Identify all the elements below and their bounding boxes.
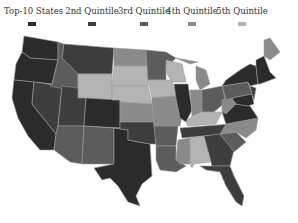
legend-label: 5th Quintile: [214, 6, 270, 16]
legend-label: 2nd Quintile: [64, 6, 120, 16]
state-mississippi: [176, 138, 190, 164]
legend-swatch: [140, 22, 148, 26]
legend-swatch: [238, 22, 246, 26]
legend-swatch: [188, 22, 196, 26]
legend-swatch: [88, 22, 96, 26]
state-colorado: [84, 98, 120, 128]
state-arizona: [54, 126, 84, 164]
us-choropleth-map: [0, 28, 298, 223]
legend-label: 4th Quintile: [164, 6, 220, 16]
legend-swatch: [28, 22, 36, 26]
state-new-england: [256, 56, 276, 84]
legend-item-4th: 4th Quintile: [164, 6, 220, 26]
legend-item-5th: 5th Quintile: [214, 6, 270, 26]
state-arkansas: [154, 126, 178, 146]
state-indiana: [190, 90, 202, 116]
legend-item-2nd: 2nd Quintile: [64, 6, 120, 26]
state-iowa: [148, 80, 176, 98]
state-wyoming: [78, 74, 112, 100]
state-florida: [200, 166, 244, 206]
state-south-dakota: [112, 66, 148, 86]
legend-label: Top-10 States: [4, 6, 60, 16]
legend-item-top10: Top-10 States: [4, 6, 60, 26]
state-new-york: [222, 64, 258, 86]
state-kansas: [120, 102, 154, 122]
state-new-mexico: [82, 126, 114, 164]
state-kentucky: [186, 112, 222, 126]
state-north-dakota: [114, 48, 148, 66]
state-wisconsin: [166, 60, 186, 82]
state-maine: [264, 38, 280, 60]
